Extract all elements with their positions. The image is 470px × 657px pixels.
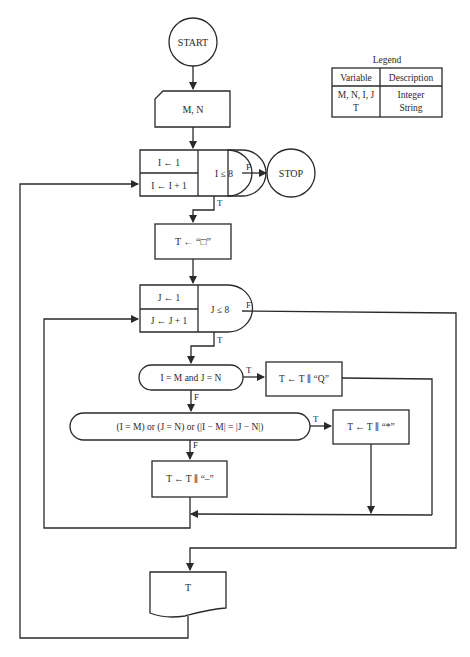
legend-row-description: String bbox=[399, 103, 422, 113]
legend-row-variable: T bbox=[353, 103, 359, 113]
loop-i-true-label: T bbox=[217, 198, 223, 208]
edge-loop-i-true bbox=[193, 196, 214, 222]
legend-header-description: Description bbox=[389, 73, 434, 83]
output-node: T bbox=[150, 572, 226, 617]
legend-header-variable: Variable bbox=[340, 73, 372, 83]
append-q-node: T ← T ∥ “Q” bbox=[266, 362, 342, 396]
edge-loop-j-true bbox=[191, 332, 214, 363]
stop-terminal: STOP bbox=[267, 149, 315, 197]
decision-attack-label: (I = M) or (J = N) or (|I − M| = |J − N|… bbox=[117, 422, 264, 433]
loop-j-node: J ← 1 J ← J + 1 J ≤ 8 bbox=[140, 285, 253, 332]
loop-i-test: I ≤ 8 bbox=[215, 169, 233, 179]
loop-j-test: J ≤ 8 bbox=[211, 305, 230, 315]
append-dash-node: T ← T ∥ “–” bbox=[152, 461, 227, 497]
loop-i-false-label: F bbox=[246, 162, 251, 172]
loop-i-init: I ← 1 bbox=[158, 158, 180, 168]
start-label: START bbox=[178, 37, 208, 48]
loop-j-step: J ← J + 1 bbox=[151, 316, 188, 326]
append-q-label: T ← T ∥ “Q” bbox=[279, 374, 329, 384]
decision-queen-node: I = M and J = N bbox=[139, 365, 243, 390]
flowchart: START M, N I ← 1 I ← I + 1 I ≤ 8 F STOP … bbox=[0, 0, 470, 657]
edge-merge bbox=[191, 514, 432, 515]
append-star-node: T ← T ∥ “*” bbox=[333, 410, 409, 444]
input-node: M, N bbox=[155, 91, 230, 127]
decision-attack-node: (I = M) or (J = N) or (|I − M| = |J − N|… bbox=[70, 413, 310, 440]
start-terminal: START bbox=[169, 18, 217, 66]
legend-row-variable: M, N, I, J bbox=[338, 90, 375, 100]
input-label: M, N bbox=[182, 104, 203, 115]
legend-title: Legend bbox=[373, 55, 402, 65]
loop-j-true-label: T bbox=[217, 335, 223, 345]
legend: Legend Variable Description M, N, I, J I… bbox=[332, 55, 442, 117]
edge-append-q-out bbox=[342, 378, 432, 515]
loop-j-false-label: F bbox=[246, 300, 251, 310]
init-t-node: T ← “□” bbox=[155, 224, 231, 259]
queen-true-label: T bbox=[246, 365, 252, 375]
decision-queen-label: I = M and J = N bbox=[161, 373, 222, 383]
append-dash-label: T ← T ∥ “–” bbox=[166, 474, 214, 484]
loop-j-init: J ← 1 bbox=[158, 293, 181, 303]
legend-row-description: Integer bbox=[398, 90, 426, 100]
attack-false-label: F bbox=[193, 440, 198, 450]
queen-false-label: F bbox=[194, 392, 199, 402]
init-t-label: T ← “□” bbox=[175, 236, 211, 247]
attack-true-label: T bbox=[313, 414, 319, 424]
output-label: T bbox=[185, 582, 191, 593]
append-star-label: T ← T ∥ “*” bbox=[347, 422, 395, 432]
stop-label: STOP bbox=[279, 168, 304, 179]
loop-i-step: I ← I + 1 bbox=[151, 181, 187, 191]
